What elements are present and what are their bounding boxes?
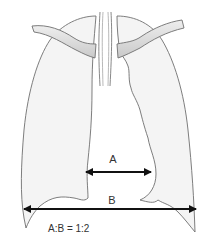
chest-diagram: A B A:B = 1:2 (0, 0, 208, 240)
label-b: B (108, 194, 115, 206)
ratio-label: A:B = 1:2 (48, 223, 90, 234)
label-a: A (109, 153, 117, 165)
trachea (99, 12, 112, 86)
